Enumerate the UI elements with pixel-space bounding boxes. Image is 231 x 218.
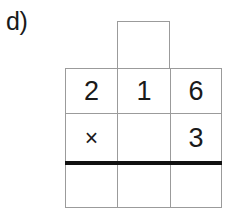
grid-cell-r3c2[interactable] (118, 164, 171, 207)
multiplication-grid: 2 1 6 × 3 (65, 68, 222, 208)
grid-cell-r3c1[interactable] (66, 164, 118, 207)
problem-label: d) (6, 9, 27, 34)
multiplication-operator-cell[interactable]: × (66, 114, 118, 164)
grid-cell-r1c3[interactable]: 6 (171, 69, 221, 114)
grid-cell-r1c2[interactable]: 1 (118, 69, 171, 114)
answer-rule-line (65, 161, 222, 165)
carry-box-cell[interactable] (117, 21, 170, 69)
grid-cell-r1c1[interactable]: 2 (66, 69, 118, 114)
grid-cell-r3c3[interactable] (171, 164, 221, 207)
worksheet-problem-canvas: d) 2 1 6 × 3 (0, 0, 231, 218)
grid-cell-r2c2[interactable] (118, 114, 171, 164)
grid-cell-r2c3[interactable]: 3 (171, 114, 221, 164)
